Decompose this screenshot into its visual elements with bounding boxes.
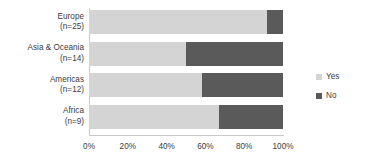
x-axis-tick-labels: 0%20%40%60%80%100%	[89, 141, 283, 155]
x-tick-label: 80%	[236, 141, 252, 153]
category-label-count: (n=12)	[60, 85, 84, 96]
category-label-name: Africa	[63, 106, 84, 117]
category-label: Asia & Oceania(n=14)	[0, 42, 84, 66]
bar-row	[89, 10, 283, 34]
x-axis-line	[89, 135, 284, 136]
x-tick-label: 60%	[197, 141, 213, 153]
legend-item[interactable]: No	[316, 91, 362, 101]
legend-label: Yes	[326, 72, 339, 82]
bar-segment-yes	[89, 105, 219, 129]
bar-segment-yes	[89, 42, 186, 66]
bar-segment-no	[267, 10, 283, 34]
category-label-name: Americas	[50, 75, 84, 86]
stacked-bar-chart: Europe(n=25)Asia & Oceania(n=14)Americas…	[0, 0, 365, 163]
legend-item[interactable]: Yes	[316, 72, 362, 82]
bar-row	[89, 73, 283, 97]
category-label: Africa(n=9)	[0, 105, 84, 129]
bar-segment-no	[186, 42, 283, 66]
category-label-name: Europe	[58, 12, 84, 23]
category-label-count: (n=25)	[60, 22, 84, 33]
x-tick-label: 40%	[158, 141, 174, 153]
x-tick-label: 100%	[273, 141, 294, 153]
legend-swatch-icon	[316, 93, 322, 99]
x-tick-label: 20%	[120, 141, 136, 153]
category-label: Europe(n=25)	[0, 10, 84, 34]
legend-swatch-icon	[316, 74, 322, 80]
x-tick-label: 0%	[83, 141, 95, 153]
category-label-count: (n=14)	[60, 54, 84, 65]
bar-row	[89, 42, 283, 66]
category-label-name: Asia & Oceania	[28, 43, 84, 54]
chart-legend: YesNo	[316, 72, 362, 110]
category-label: Americas(n=12)	[0, 73, 84, 97]
bar-row	[89, 105, 283, 129]
bar-segment-no	[219, 105, 283, 129]
plot-area	[89, 8, 283, 135]
category-axis-labels: Europe(n=25)Asia & Oceania(n=14)Americas…	[0, 10, 84, 129]
category-label-count: (n=9)	[65, 117, 84, 128]
legend-label: No	[326, 91, 336, 101]
bar-segment-yes	[89, 10, 267, 34]
bar-segment-no	[202, 73, 283, 97]
bar-segment-yes	[89, 73, 202, 97]
